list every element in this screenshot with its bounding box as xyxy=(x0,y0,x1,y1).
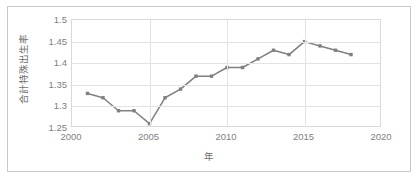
x-axis-tick-label: 2010 xyxy=(204,131,248,142)
data-point-marker xyxy=(86,92,89,95)
plot-area xyxy=(71,19,381,127)
data-point-marker xyxy=(318,44,321,47)
data-point-marker xyxy=(101,96,104,99)
data-point-marker xyxy=(241,66,244,69)
y-axis-tick-label: 1.5 xyxy=(33,14,67,25)
chart-canvas: 合計特殊出生率 1.251.31.351.41.451.5 2000200520… xyxy=(8,7,410,171)
x-axis-tick-label: 2015 xyxy=(282,131,326,142)
data-point-marker xyxy=(117,109,120,112)
data-point-marker xyxy=(132,109,135,112)
series-line xyxy=(88,42,352,124)
data-point-marker xyxy=(272,49,275,52)
gridline-horizontal xyxy=(72,63,380,64)
gridline-vertical xyxy=(305,20,306,126)
data-point-marker xyxy=(256,57,259,60)
y-axis-tick-label: 1.35 xyxy=(33,78,67,89)
x-axis-tick-label: 2000 xyxy=(49,131,93,142)
gridline-vertical xyxy=(150,20,151,126)
data-point-marker xyxy=(179,87,182,90)
data-point-marker xyxy=(334,49,337,52)
y-axis-tick-label: 1.45 xyxy=(33,35,67,46)
chart-frame: 合計特殊出生率 1.251.31.351.41.451.5 2000200520… xyxy=(7,6,411,172)
y-axis-title: 合計特殊出生率 xyxy=(16,21,30,117)
x-axis-tick-labels: 20002005201020152020 xyxy=(71,131,381,145)
x-axis-tick-label: 2005 xyxy=(127,131,171,142)
data-point-marker xyxy=(349,53,352,56)
y-axis-tick-labels: 1.251.31.351.41.451.5 xyxy=(30,19,67,127)
gridline-horizontal xyxy=(72,85,380,86)
y-axis-tick-label: 1.4 xyxy=(33,57,67,68)
gridline-horizontal xyxy=(72,42,380,43)
gridline-horizontal xyxy=(72,106,380,107)
data-point-marker xyxy=(210,74,213,77)
x-axis-title: 年 xyxy=(8,149,410,163)
data-point-marker xyxy=(287,53,290,56)
data-point-marker xyxy=(194,74,197,77)
gridline-vertical xyxy=(227,20,228,126)
y-axis-tick-label: 1.3 xyxy=(33,100,67,111)
data-point-marker xyxy=(163,96,166,99)
x-axis-tick-label: 2020 xyxy=(359,131,403,142)
